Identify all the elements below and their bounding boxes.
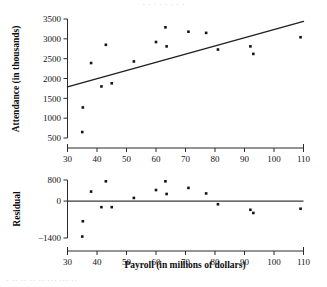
data-point <box>133 60 136 63</box>
data-point <box>110 82 113 85</box>
residual-data-point <box>164 180 167 183</box>
residual-data-point <box>299 207 302 210</box>
x-tick-label: 90 <box>240 154 250 164</box>
residual-data-point <box>100 206 103 209</box>
scatter-y-ticks <box>64 19 68 138</box>
data-point <box>299 36 302 39</box>
data-point <box>187 30 190 33</box>
residual-x-ticks <box>68 251 304 255</box>
residual-data-point <box>217 203 220 206</box>
x-tick-label: 30 <box>63 154 73 164</box>
scatter-x-ticks <box>68 148 304 152</box>
data-point <box>82 106 85 109</box>
y-tick-label: 2000 <box>43 74 62 84</box>
regression-line <box>68 21 304 86</box>
residual-data-point <box>252 212 255 215</box>
residual-y-tick-label: 0 <box>57 196 62 206</box>
y-tick-label: 3000 <box>43 34 62 44</box>
residual-data-point <box>249 208 252 211</box>
chart-canvas: 500100015002000250030003500 304050607080… <box>0 0 327 287</box>
scatter-x-tick-labels: 30405060708090100110 <box>63 154 311 164</box>
residual-y-tick-labels: 8000−1400 <box>38 175 62 243</box>
residual-data-point <box>165 193 168 196</box>
y-tick-label: 500 <box>48 133 62 143</box>
x-tick-label: 100 <box>267 154 281 164</box>
y-tick-label: 3500 <box>43 14 62 24</box>
residual-x-tick-label: 110 <box>297 257 311 267</box>
data-point <box>252 53 255 56</box>
scatter-data-points <box>81 26 302 133</box>
scatter-y-tick-labels: 500100015002000250030003500 <box>43 14 62 143</box>
residual-plot-panel: 8000−1400 30405060708090100110 Residual … <box>12 175 311 271</box>
data-point <box>217 48 220 51</box>
x-tick-label: 40 <box>93 154 103 164</box>
data-point <box>165 45 168 48</box>
residual-x-tick-label: 40 <box>93 257 103 267</box>
x-axis-title: Payroll (in millions of dollars) <box>124 260 245 271</box>
data-point <box>155 41 158 44</box>
residual-data-point <box>82 220 85 223</box>
residual-data-points <box>81 180 302 238</box>
data-point <box>205 32 208 35</box>
data-point <box>249 45 252 48</box>
residual-x-tick-label: 30 <box>63 257 73 267</box>
x-tick-label: 60 <box>152 154 162 164</box>
residual-data-point <box>110 206 113 209</box>
residual-y-axis-title: Residual <box>12 191 22 227</box>
residual-data-point <box>155 189 158 192</box>
residual-data-point <box>105 180 108 183</box>
regression-figure: · · · · · · · · 500100015002000250030003… <box>0 0 327 287</box>
residual-data-point <box>133 197 136 200</box>
residual-y-tick-label: −1400 <box>38 233 62 243</box>
residual-x-tick-label: 100 <box>267 257 281 267</box>
y-tick-label: 1000 <box>43 113 62 123</box>
x-tick-label: 50 <box>122 154 132 164</box>
data-point <box>100 85 103 88</box>
data-point <box>164 26 167 29</box>
scatter-plot-panel: 500100015002000250030003500 304050607080… <box>11 14 311 163</box>
data-point <box>81 131 84 134</box>
data-point <box>90 62 93 65</box>
y-tick-label: 2500 <box>43 54 62 64</box>
scatter-y-axis-title: Attendance (in thousands) <box>11 26 22 133</box>
residual-data-point <box>187 187 190 190</box>
residual-y-tick-label: 800 <box>48 175 62 185</box>
y-tick-label: 1500 <box>43 94 62 104</box>
x-tick-label: 110 <box>297 154 311 164</box>
x-tick-label: 70 <box>181 154 191 164</box>
cropped-header-text: · · · · · · · · <box>0 0 327 10</box>
residual-data-point <box>81 235 84 238</box>
data-point <box>105 43 108 46</box>
cropped-footer-text: · ·· ·· ·· ·· ··· ··· ·· <box>0 274 327 287</box>
residual-data-point <box>90 190 93 193</box>
residual-y-ticks <box>64 180 68 238</box>
x-tick-label: 80 <box>211 154 221 164</box>
residual-data-point <box>205 192 208 195</box>
